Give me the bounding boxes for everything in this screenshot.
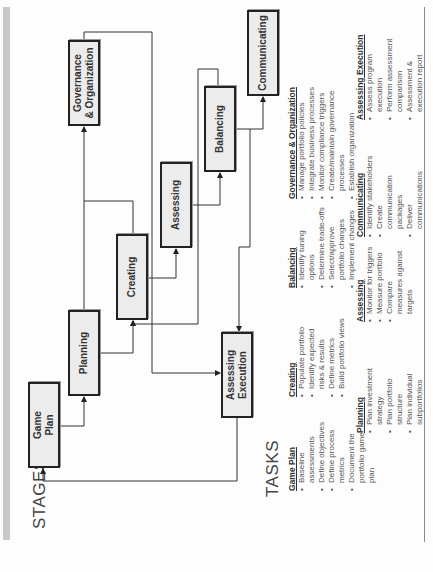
task-title: Governance & Organization (287, 59, 297, 199)
diagram-canvas: STAGES TASKS Game P (0, 0, 433, 572)
task-item: Identify tuning options (297, 206, 317, 288)
stage-governance-organization: Governance & Organization (68, 40, 100, 126)
task-item: Plan portfolio structure (385, 353, 405, 433)
task-item: Deliver communications (405, 155, 425, 237)
task-item: Select/approve portfolio changes (327, 206, 347, 288)
stage-label: Game Plan (32, 411, 56, 439)
task-item: Perform assessment comparison (385, 28, 405, 120)
task-title: Assessing Execution (355, 28, 365, 120)
stage-game-plan: Game Plan (28, 382, 60, 468)
stage-label: Communicating (257, 15, 269, 91)
stage-assessing: Assessing (160, 162, 192, 248)
task-item: Identify expected risks & results (307, 315, 327, 397)
task-group-balancing: Balancing Identify tuning options Determ… (287, 206, 357, 288)
task-group-planning: Planning Plan investment strategy Plan p… (355, 353, 425, 433)
diagram-frame: STAGES TASKS Game P (0, 0, 433, 572)
task-group-assessing: Assessing Monitor for triggers Measure p… (355, 244, 415, 322)
task-item: Populate portfolio (297, 315, 307, 397)
task-item: Build portfolio views (337, 315, 347, 397)
stage-communicating: Communicating (247, 10, 279, 96)
task-title: Planning (355, 353, 365, 433)
task-item: Measure portfolio (375, 244, 385, 322)
task-title: Creating (287, 315, 297, 397)
task-group-communicating: Communicating Identify stakeholders Crea… (355, 155, 425, 237)
task-item: Plan investment strategy (365, 353, 385, 433)
task-item: Plan individual subportfolios (405, 353, 425, 433)
task-item: Compare measures against targets (385, 244, 415, 322)
task-item: Identify stakeholders (365, 155, 375, 237)
stage-balancing: Balancing (204, 86, 236, 172)
task-item: Monitor for triggers (365, 244, 375, 322)
task-item: Baseline assessments (297, 421, 317, 491)
stage-label: Assessing (170, 180, 182, 230)
connector-assessing-balancing (192, 173, 220, 205)
task-item: Determine trade-offs (317, 206, 327, 288)
task-item: Integrate business processes (307, 59, 317, 199)
task-item: Create communication packages (375, 155, 405, 237)
stage-label: Balancing (214, 105, 226, 153)
task-item: Assess program execution (365, 28, 385, 120)
stage-assessing-execution: Assessing Execution (221, 332, 253, 418)
stage-creating: Creating (116, 234, 148, 320)
task-item: Create/maintain governance processes (327, 59, 347, 199)
stage-label: Planning (78, 332, 90, 374)
task-group-assessing-execution: Assessing Execution Assess program execu… (355, 28, 425, 120)
task-item: Define process metrics (327, 421, 347, 491)
task-item: Define metrics (327, 315, 337, 397)
task-title: Game Plan (287, 421, 297, 491)
stage-label: Assessing Execution (225, 350, 249, 400)
stage-label: Governance & Organization (72, 47, 96, 118)
task-group-governance-organization: Governance & Organization Manage portfol… (287, 59, 357, 199)
task-item: Monitor compliance triggers (317, 59, 327, 199)
task-title: Balancing (287, 206, 297, 288)
task-group-creating: Creating Populate portfolio Identify exp… (287, 315, 347, 397)
task-item: Define objectives (317, 421, 327, 491)
connector-gameplan-planning (60, 397, 84, 426)
connector-governance-assessing-execution (84, 32, 220, 373)
connector-planning-creating (100, 321, 133, 353)
connector-creating-governance (84, 201, 133, 234)
connector-balancing-assessing-execution (239, 129, 250, 331)
stage-label: Creating (126, 257, 138, 298)
task-item: Assessment & execution report (405, 28, 425, 120)
connector-balancing-communicating (236, 97, 263, 129)
stage-planning: Planning (68, 310, 100, 396)
task-item: Manage portfolio policies (297, 59, 307, 199)
connector-assessing-execution-gameplan (43, 418, 237, 481)
